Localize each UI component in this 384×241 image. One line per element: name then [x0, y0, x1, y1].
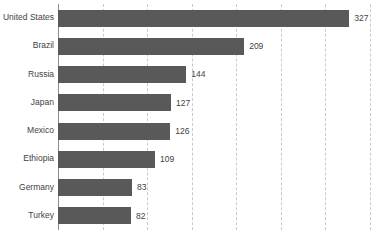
category-label-ethiopia: Ethiopia	[0, 154, 54, 163]
category-label-mexico: Mexico	[0, 126, 54, 135]
category-label-japan: Japan	[0, 98, 54, 107]
bar-rows: 3272091441271261098382	[58, 4, 384, 230]
bar-value-label: 83	[137, 183, 146, 192]
bar-row: 126	[58, 117, 384, 145]
bar-row: 127	[58, 89, 384, 117]
category-label-brazil: Brazil	[0, 41, 54, 50]
bar-value-label: 327	[354, 14, 368, 23]
category-label-germany: Germany	[0, 183, 54, 192]
bar-value-label: 126	[175, 127, 189, 136]
bar-value-label: 209	[249, 42, 263, 51]
bar-row: 109	[58, 145, 384, 173]
plot-area: 3272091441271261098382	[58, 4, 384, 230]
bar-value-label: 82	[136, 212, 145, 221]
bar-row: 144	[58, 61, 384, 89]
bar-row: 327	[58, 4, 384, 32]
bar-row: 209	[58, 32, 384, 60]
bar-value-label: 127	[176, 99, 190, 108]
category-label-united-states: United States	[0, 13, 54, 22]
bar[interactable]	[58, 151, 155, 168]
bar-row: 83	[58, 174, 384, 202]
bar[interactable]	[58, 38, 244, 55]
category-axis-labels: United States Brazil Russia Japan Mexico…	[0, 4, 54, 230]
bar[interactable]	[58, 10, 349, 27]
bar[interactable]	[58, 123, 170, 140]
bar[interactable]	[58, 66, 186, 83]
bar[interactable]	[58, 179, 132, 196]
bar-chart: United States Brazil Russia Japan Mexico…	[0, 0, 384, 241]
bar-row: 82	[58, 202, 384, 230]
bar[interactable]	[58, 94, 171, 111]
category-label-russia: Russia	[0, 70, 54, 79]
bar-value-label: 109	[160, 155, 174, 164]
bar-value-label: 144	[191, 70, 205, 79]
bar[interactable]	[58, 207, 131, 224]
category-label-turkey: Turkey	[0, 211, 54, 220]
